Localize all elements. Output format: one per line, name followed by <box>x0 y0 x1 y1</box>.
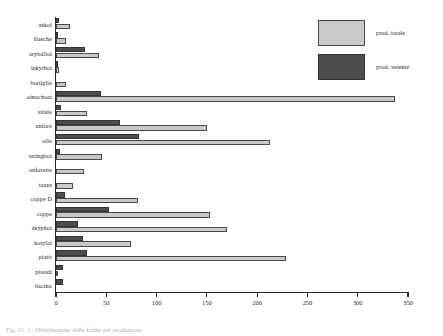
bar-total <box>56 241 131 246</box>
legend-label-total: prod. totale <box>376 28 405 37</box>
x-tick-label-50: 50 <box>91 299 121 307</box>
category-label-skyphoi: skyphoi <box>0 224 52 231</box>
bar-veiente <box>56 105 61 110</box>
bar-chart-figure: askoifiaschearyballoilekythoibottiglieoi… <box>0 0 443 336</box>
bar-veiente <box>56 47 85 52</box>
category-label-fiasche: fiasche <box>0 35 52 42</box>
category-label-coppe-d: coppe D <box>0 195 52 202</box>
bar-total <box>56 227 227 232</box>
category-label-lekythoi: lekythoi <box>0 64 52 71</box>
bar-total <box>56 140 270 145</box>
bar-row <box>56 191 408 206</box>
legend-item-prod-totale: prod. totale <box>318 20 440 46</box>
bar-total <box>56 169 84 174</box>
bar-veiente <box>56 120 120 125</box>
bar-row <box>56 264 408 279</box>
bar-row <box>56 148 408 163</box>
bar-row <box>56 177 408 192</box>
bar-veiente <box>56 250 87 255</box>
category-label-askoi: askoi <box>0 21 52 28</box>
bar-veiente <box>56 192 65 197</box>
bar-veiente <box>56 18 59 23</box>
bar-veiente <box>56 134 139 139</box>
bar-row <box>56 104 408 119</box>
bar-total <box>56 111 87 116</box>
category-label-anfore: anfore <box>0 122 52 129</box>
bar-veiente <box>56 279 63 284</box>
category-label-coppe: coppe <box>0 210 52 217</box>
bar-row <box>56 249 408 264</box>
bar-veiente <box>56 221 78 226</box>
bar-total <box>56 198 138 203</box>
bar-total <box>56 24 70 29</box>
category-label-attingitoi: attingitoi <box>0 152 52 159</box>
bar-total <box>56 154 102 159</box>
bar-total <box>56 38 66 43</box>
legend-label-veiente: prod. veiente <box>376 62 409 71</box>
category-label-piatti: piatti <box>0 253 52 260</box>
bar-total <box>56 183 73 188</box>
x-tick-label-0: 0 <box>41 299 71 307</box>
legend-swatch-veiente-icon <box>318 54 365 80</box>
bar-total <box>56 212 210 217</box>
category-label-kotylai: kotylai <box>0 239 52 246</box>
bar-row <box>56 220 408 235</box>
x-tick-300 <box>357 292 358 297</box>
category-label-tazze: tazze <box>0 181 52 188</box>
category-axis-labels: askoifiaschearyballoilekythoibottiglieoi… <box>0 17 52 293</box>
bar-row <box>56 278 408 293</box>
figure-caption: Fig. 21. 1 - Distribuzione delle forme p… <box>6 326 436 334</box>
bar-total <box>56 271 58 276</box>
x-tick-label-250: 250 <box>292 299 322 307</box>
bar-row <box>56 162 408 177</box>
bar-veiente <box>56 32 58 37</box>
bar-row <box>56 90 408 105</box>
category-label-olle: olle <box>0 137 52 144</box>
bar-total <box>56 82 66 87</box>
x-tick-0 <box>55 292 56 297</box>
x-tick-200 <box>257 292 258 297</box>
bar-total <box>56 125 207 130</box>
chart-legend: prod. totale prod. veiente <box>318 20 440 82</box>
x-tick-250 <box>307 292 308 297</box>
category-label-anforette: anforette <box>0 166 52 173</box>
bar-row <box>56 206 408 221</box>
bar-veiente <box>56 236 83 241</box>
bar-row <box>56 235 408 250</box>
bar-veiente <box>56 207 109 212</box>
x-tick-label-200: 200 <box>242 299 272 307</box>
bar-veiente <box>56 91 101 96</box>
x-tick-150 <box>206 292 207 297</box>
x-tick-50 <box>106 292 107 297</box>
legend-swatch-total-icon <box>318 20 365 46</box>
bar-total <box>56 256 286 261</box>
bar-row <box>56 119 408 134</box>
bar-veiente <box>56 265 63 270</box>
category-label-bottiglie: bottiglie <box>0 79 52 86</box>
category-label-pissidi: pissidi <box>0 268 52 275</box>
x-tick-label-150: 150 <box>192 299 222 307</box>
bar-total <box>56 96 395 101</box>
bar-veiente <box>56 149 60 154</box>
x-tick-label-100: 100 <box>142 299 172 307</box>
bar-total <box>56 67 59 72</box>
category-label-situle: situle <box>0 108 52 115</box>
bar-row <box>56 133 408 148</box>
x-tick-label-350: 350 <box>393 299 423 307</box>
bar-veiente <box>56 61 58 66</box>
x-tick-350 <box>407 292 408 297</box>
category-label-aryballoi: aryballoi <box>0 50 52 57</box>
legend-item-prod-veiente: prod. veiente <box>318 54 440 80</box>
category-label-bacino: bacino <box>0 282 52 289</box>
bar-total <box>56 53 99 58</box>
x-tick-label-300: 300 <box>343 299 373 307</box>
category-label-oinochoai: oinochoai <box>0 93 52 100</box>
x-tick-100 <box>156 292 157 297</box>
